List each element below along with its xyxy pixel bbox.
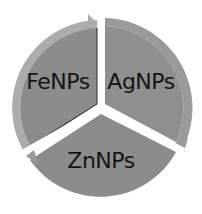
cycle-diagram: FeNPs AgNPs ZnNPs xyxy=(0,0,202,214)
label-agnps: AgNPs xyxy=(107,69,174,94)
label-znnps: ZnNPs xyxy=(67,148,134,173)
label-fenps: FeNPs xyxy=(26,69,89,94)
